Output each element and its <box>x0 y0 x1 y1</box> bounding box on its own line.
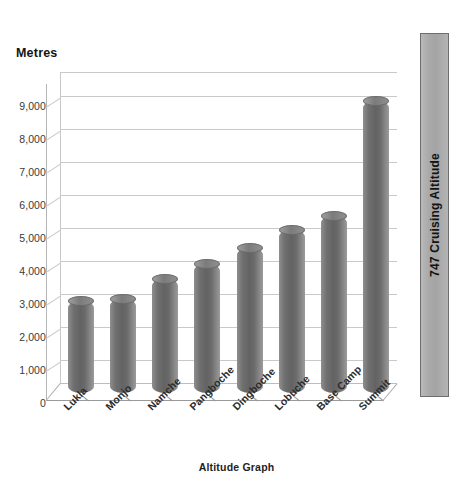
gridline-depth-edge <box>46 164 61 174</box>
gridline <box>60 96 397 97</box>
gridline-depth-edge <box>46 263 61 273</box>
bar-top-ellipse <box>152 274 178 284</box>
bar <box>237 248 263 393</box>
bar-top-ellipse <box>321 211 347 221</box>
bar <box>321 216 347 393</box>
gridline-depth-edge <box>46 197 61 207</box>
bar <box>68 301 94 393</box>
y-axis-tick-label: 5,000 <box>2 232 46 244</box>
altitude-chart: Metres 01,0002,0003,0004,0005,0006,0007,… <box>0 0 473 495</box>
gridline-depth-edge <box>46 329 61 339</box>
bar-top-ellipse <box>194 259 220 269</box>
bar-top-ellipse <box>110 294 136 304</box>
x-axis-title: Altitude Graph <box>0 461 473 473</box>
y-axis-tick-label: 1,000 <box>2 364 46 376</box>
bar-top-ellipse <box>237 243 263 253</box>
plot-area: 01,0002,0003,0004,0005,0006,0007,0008,00… <box>0 0 473 495</box>
y-axis-line <box>46 84 47 400</box>
y-axis-tick-label: 9,000 <box>2 100 46 112</box>
back-wall-top-edge <box>60 72 397 73</box>
gridline <box>60 129 397 130</box>
gridline <box>60 162 397 163</box>
bar-top-ellipse <box>279 225 305 235</box>
y-axis-tick-label: 4,000 <box>2 265 46 277</box>
bar-top-ellipse <box>363 96 389 106</box>
bar <box>110 299 136 393</box>
y-axis-tick-label: 6,000 <box>2 199 46 211</box>
bar <box>363 101 389 393</box>
gridline-depth-edge <box>46 362 61 372</box>
y-axis-tick-label: 7,000 <box>2 166 46 178</box>
gridline-depth-edge <box>46 131 61 141</box>
gridline-depth-edge <box>46 98 61 108</box>
reference-bar-label: 747 Cruising Altitude <box>428 153 442 277</box>
bar-top-ellipse <box>68 296 94 306</box>
gridline-depth-edge <box>46 230 61 240</box>
y-axis-tick-label: 3,000 <box>2 298 46 310</box>
bar <box>279 230 305 393</box>
gridline-depth-edge <box>46 296 61 306</box>
y-axis-tick-label: 8,000 <box>2 133 46 145</box>
y-axis-tick-label: 2,000 <box>2 331 46 343</box>
y-axis-tick-label: 0 <box>2 397 46 409</box>
reference-bar-747-cruising-altitude: 747 Cruising Altitude <box>420 33 449 397</box>
gridline <box>60 195 397 196</box>
